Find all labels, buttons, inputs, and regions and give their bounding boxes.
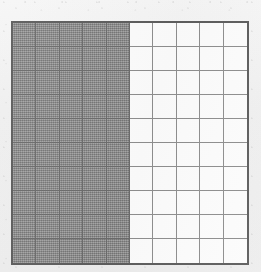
grid-cell-empty xyxy=(130,95,153,119)
grid-cell-shaded xyxy=(83,71,106,95)
grid-cell-shaded xyxy=(83,167,106,191)
grid-cell-shaded xyxy=(107,71,130,95)
grid-cell-empty xyxy=(153,191,176,215)
grid-cell-shaded xyxy=(13,23,36,47)
grid-cell-empty xyxy=(177,23,200,47)
scanned-page: 50/100 xyxy=(0,0,261,272)
grid-cell-shaded xyxy=(83,119,106,143)
grid-cell-shaded xyxy=(13,191,36,215)
grid-cell-empty xyxy=(153,143,176,167)
grid-cell-shaded xyxy=(83,215,106,239)
grid-cell-shaded xyxy=(107,119,130,143)
grid-cell-empty xyxy=(153,167,176,191)
grid-cell-shaded xyxy=(107,239,130,263)
grid-cell-shaded xyxy=(83,143,106,167)
grid-cell-shaded xyxy=(36,215,59,239)
grid-cell-empty xyxy=(153,23,176,47)
grid-cell-empty xyxy=(224,191,247,215)
hundredths-grid-container xyxy=(11,21,249,265)
grid-cell-empty xyxy=(130,143,153,167)
grid-cell-shaded xyxy=(13,167,36,191)
grid-cell-shaded xyxy=(13,215,36,239)
grid-cell-shaded xyxy=(13,143,36,167)
grid-cell-empty xyxy=(130,215,153,239)
grid-cell-shaded xyxy=(60,143,83,167)
grid-cell-shaded xyxy=(13,47,36,71)
grid-cell-empty xyxy=(153,47,176,71)
grid-cell-empty xyxy=(177,239,200,263)
grid-cell-shaded xyxy=(60,191,83,215)
grid-cell-shaded xyxy=(36,143,59,167)
grid-cell-shaded xyxy=(60,239,83,263)
grid-cell-empty xyxy=(130,47,153,71)
grid-cell-shaded xyxy=(107,215,130,239)
grid-cell-empty xyxy=(224,95,247,119)
grid-cell-shaded xyxy=(60,119,83,143)
grid-cell-empty xyxy=(153,71,176,95)
grid-cell-empty xyxy=(200,47,223,71)
grid-cell-shaded xyxy=(36,47,59,71)
grid-cell-empty xyxy=(200,95,223,119)
grid-cell-empty xyxy=(177,71,200,95)
grid-cell-shaded xyxy=(36,23,59,47)
grid-cell-empty xyxy=(153,119,176,143)
grid-cell-shaded xyxy=(60,215,83,239)
grid-cell-shaded xyxy=(83,47,106,71)
grid-cell-shaded xyxy=(36,95,59,119)
grid-cell-empty xyxy=(200,215,223,239)
grid-cell-empty xyxy=(224,71,247,95)
grid-cell-shaded xyxy=(83,23,106,47)
grid-cell-empty xyxy=(130,71,153,95)
grid-cell-empty xyxy=(224,215,247,239)
grid-cell-shaded xyxy=(83,95,106,119)
grid-cell-empty xyxy=(130,167,153,191)
grid-cell-shaded xyxy=(107,47,130,71)
grid-cell-shaded xyxy=(83,239,106,263)
grid-cell-shaded xyxy=(60,23,83,47)
grid-cell-shaded xyxy=(13,95,36,119)
grid-cell-empty xyxy=(200,119,223,143)
grid-cell-shaded xyxy=(13,239,36,263)
grid-cell-empty xyxy=(177,191,200,215)
grid-cell-shaded xyxy=(107,95,130,119)
grid-cell-empty xyxy=(200,167,223,191)
grid-cell-empty xyxy=(130,23,153,47)
grid-cell-empty xyxy=(177,215,200,239)
grid-cell-empty xyxy=(224,47,247,71)
grid-cell-shaded xyxy=(36,191,59,215)
hundredths-grid xyxy=(11,21,249,265)
grid-cell-empty xyxy=(224,239,247,263)
grid-cell-shaded xyxy=(60,47,83,71)
grid-cell-empty xyxy=(153,95,176,119)
grid-cell-shaded xyxy=(13,119,36,143)
grid-cell-shaded xyxy=(60,167,83,191)
grid-cell-shaded xyxy=(83,191,106,215)
grid-cell-shaded xyxy=(107,23,130,47)
grid-cell-empty xyxy=(153,215,176,239)
grid-cell-empty xyxy=(224,143,247,167)
grid-cell-shaded xyxy=(107,143,130,167)
grid-cell-shaded xyxy=(36,239,59,263)
grid-cell-shaded xyxy=(36,119,59,143)
grid-cell-empty xyxy=(130,239,153,263)
grid-cell-shaded xyxy=(60,95,83,119)
grid-cell-empty xyxy=(200,191,223,215)
grid-cell-shaded xyxy=(107,191,130,215)
grid-cell-empty xyxy=(200,239,223,263)
grid-cell-empty xyxy=(200,23,223,47)
grid-cell-empty xyxy=(224,119,247,143)
grid-cell-shaded xyxy=(107,167,130,191)
grid-cell-empty xyxy=(200,143,223,167)
grid-cell-empty xyxy=(177,47,200,71)
grid-cell-empty xyxy=(200,71,223,95)
grid-cell-empty xyxy=(130,191,153,215)
grid-cell-shaded xyxy=(36,167,59,191)
grid-cell-empty xyxy=(177,95,200,119)
grid-cell-shaded xyxy=(60,71,83,95)
grid-cell-empty xyxy=(177,167,200,191)
grid-cell-empty xyxy=(130,119,153,143)
grid-cell-empty xyxy=(177,143,200,167)
grid-cell-shaded xyxy=(36,71,59,95)
grid-cell-empty xyxy=(177,119,200,143)
grid-cell-empty xyxy=(153,239,176,263)
